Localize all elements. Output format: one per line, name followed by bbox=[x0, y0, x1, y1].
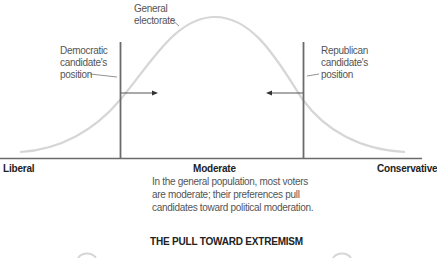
next-section-title: THE PULL TOWARD EXTREMISM bbox=[150, 236, 303, 247]
democratic-position-label: Democratic candidate's position bbox=[60, 45, 108, 81]
rep-label-line3: position bbox=[321, 69, 368, 81]
caption-line3: candidates toward political moderation. bbox=[152, 201, 313, 214]
republican-leader-line bbox=[307, 74, 319, 76]
rep-label-line1: Republican bbox=[321, 45, 368, 57]
electorate-distribution-curve bbox=[20, 17, 405, 152]
dem-label-line1: Democratic bbox=[60, 45, 108, 57]
general-label-line2: electorate bbox=[134, 15, 175, 27]
axis-label-moderate: Moderate bbox=[193, 163, 236, 174]
rep-label-line2: candidate's bbox=[321, 57, 368, 69]
caption-line2: are moderate; their preferences pull bbox=[152, 188, 313, 201]
general-label-line1: General bbox=[134, 3, 175, 15]
diagram-caption: In the general population, most voters a… bbox=[152, 175, 313, 214]
republican-position-label: Republican candidate's position bbox=[321, 45, 368, 81]
caption-line1: In the general population, most voters bbox=[152, 175, 313, 188]
general-electorate-label: General electorate bbox=[134, 3, 175, 27]
dem-label-line2: candidate's bbox=[60, 57, 108, 69]
right-arrow-icon bbox=[152, 91, 158, 96]
left-arrow-icon bbox=[266, 91, 272, 96]
axis-label-liberal: Liberal bbox=[3, 163, 34, 174]
axis-label-conservative: Conservative bbox=[377, 163, 437, 174]
dem-label-line3: position bbox=[60, 69, 108, 81]
next-figure-curve-left bbox=[78, 254, 96, 258]
next-figure-curve-right bbox=[333, 254, 351, 258]
